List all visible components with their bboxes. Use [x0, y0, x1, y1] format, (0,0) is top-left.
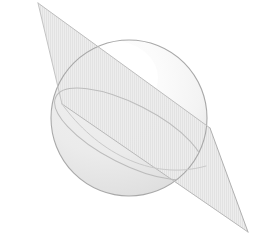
figure-svg — [0, 0, 268, 242]
geometry-figure: Sphere cut by a plane A shaded sphere in… — [0, 0, 268, 242]
